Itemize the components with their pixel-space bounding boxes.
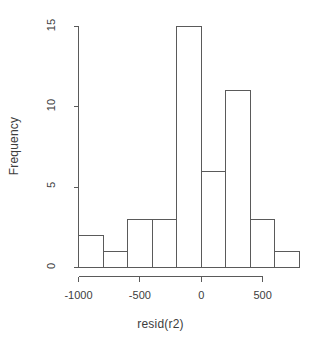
y-axis-title: Frequency xyxy=(7,96,21,196)
x-tick-label: 500 xyxy=(233,289,293,301)
histogram-bar xyxy=(226,91,251,268)
histogram-plot: 051015 -1000-5000500 Frequency resid(r2) xyxy=(0,0,321,351)
x-tick-label: 0 xyxy=(171,289,231,301)
x-axis-line xyxy=(79,277,263,282)
y-tick-label: 0 xyxy=(45,255,57,277)
histogram-bar xyxy=(275,251,300,267)
histogram-bar xyxy=(201,171,226,267)
y-tick-label: 15 xyxy=(45,14,57,36)
x-axis-title: resid(r2) xyxy=(0,317,321,331)
histogram-bar xyxy=(128,219,153,267)
histogram-bar xyxy=(103,251,128,267)
histogram-bar xyxy=(177,27,202,268)
y-axis-line xyxy=(74,27,79,268)
axes-group xyxy=(74,27,300,282)
histogram-bar xyxy=(250,219,275,267)
y-tick-label: 10 xyxy=(45,94,57,116)
x-tick-label: -1000 xyxy=(49,289,109,301)
bars-group xyxy=(79,27,300,268)
x-tick-label: -500 xyxy=(110,289,170,301)
histogram-bar xyxy=(152,219,177,267)
y-tick-label: 5 xyxy=(45,174,57,196)
histogram-bar xyxy=(79,235,104,267)
